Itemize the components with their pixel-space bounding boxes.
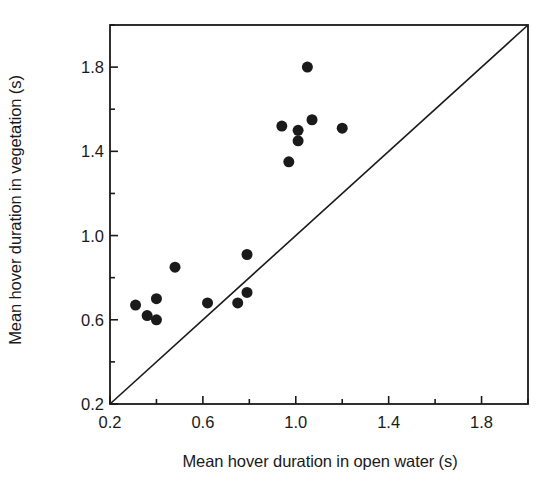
x-tick-label: 1.4 (359, 414, 419, 431)
data-point (151, 293, 162, 304)
data-point (242, 287, 253, 298)
data-point (242, 249, 253, 260)
x-tick-label: 1.0 (266, 414, 326, 431)
equality-reference-line (110, 25, 528, 404)
x-axis-title: Mean hover duration in open water (s) (110, 452, 530, 471)
data-point (283, 156, 294, 167)
data-point (293, 125, 304, 136)
data-point (151, 314, 162, 325)
data-point-markers (130, 62, 348, 326)
data-point (170, 262, 181, 273)
x-tick-label: 0.2 (80, 414, 140, 431)
x-axis-tick-labels: 0.20.61.01.41.8 (0, 414, 554, 438)
data-point (232, 297, 243, 308)
x-tick-label: 0.6 (173, 414, 233, 431)
data-point (276, 121, 287, 132)
data-point (302, 62, 313, 73)
data-point (130, 300, 141, 311)
x-tick-label: 1.8 (452, 414, 512, 431)
data-point (293, 135, 304, 146)
data-point (202, 297, 213, 308)
equality-line (110, 25, 528, 404)
data-point (337, 123, 348, 134)
data-point (307, 114, 318, 125)
scatter-plot-figure: Mean hover duration in vegetation (s) 0.… (0, 0, 554, 493)
x-axis-title-text: Mean hover duration in open water (s) (182, 452, 457, 470)
